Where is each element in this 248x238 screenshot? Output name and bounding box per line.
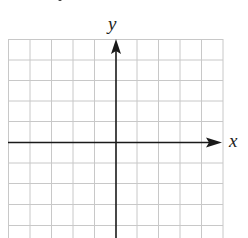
y-axis <box>111 39 121 238</box>
x-axis-label: x <box>229 131 237 150</box>
x-axis <box>8 138 222 148</box>
y-axis-label: y <box>108 14 116 33</box>
coordinate-grid-figure: y x <box>0 0 248 238</box>
coordinate-plane <box>0 0 248 238</box>
